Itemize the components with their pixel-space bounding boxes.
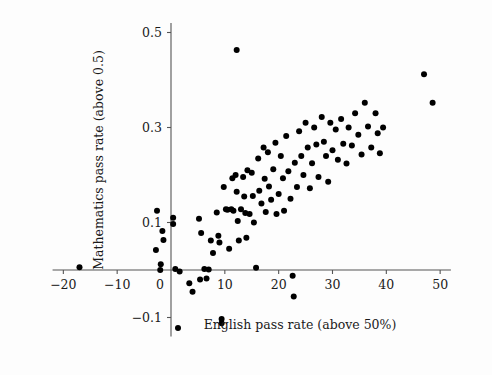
- scatter-plot-figure: −20−1001020304050−0.10.10.30.5 English p…: [0, 0, 492, 375]
- data-point: [276, 191, 282, 197]
- data-point: [251, 220, 257, 226]
- data-point: [249, 170, 255, 176]
- data-point: [365, 124, 371, 130]
- data-point: [305, 144, 311, 150]
- data-point: [221, 184, 227, 190]
- data-point: [373, 110, 379, 116]
- data-point: [266, 183, 272, 189]
- data-point: [270, 166, 276, 172]
- data-point: [250, 193, 256, 199]
- data-point: [190, 289, 196, 295]
- data-point: [159, 228, 165, 234]
- data-point: [338, 116, 344, 122]
- data-point: [333, 126, 339, 132]
- x-tick-label: 40: [378, 277, 394, 292]
- data-point: [234, 47, 240, 53]
- data-point: [76, 264, 82, 270]
- data-point: [255, 155, 261, 161]
- y-axis-title: Mathematics pass rate (above 0.5): [91, 50, 106, 270]
- data-point: [329, 147, 335, 153]
- data-point: [319, 114, 325, 120]
- y-tick-label: 0.3: [142, 120, 162, 135]
- data-point: [321, 139, 327, 145]
- data-point: [210, 250, 216, 256]
- data-point: [157, 267, 163, 273]
- data-point: [154, 208, 160, 214]
- data-point: [288, 196, 294, 202]
- data-point: [175, 325, 181, 331]
- data-point: [208, 238, 214, 244]
- data-point: [340, 141, 346, 147]
- x-axis-title: English pass rate (above 50%): [204, 317, 397, 332]
- data-point: [215, 233, 221, 239]
- data-point: [158, 261, 164, 267]
- data-point: [230, 208, 236, 214]
- data-point: [233, 172, 239, 178]
- data-point: [335, 157, 341, 163]
- data-point: [170, 215, 176, 221]
- data-point: [355, 132, 361, 138]
- data-point: [362, 100, 368, 106]
- data-point: [375, 130, 381, 136]
- data-point: [262, 176, 268, 182]
- data-point: [235, 218, 241, 224]
- data-point: [198, 230, 204, 236]
- data-point: [204, 276, 210, 282]
- data-point: [359, 152, 365, 158]
- data-point: [294, 184, 300, 190]
- data-point: [206, 267, 212, 273]
- data-point: [315, 174, 321, 180]
- x-tick-label: 30: [325, 277, 341, 292]
- data-point: [197, 277, 203, 283]
- data-point: [323, 153, 329, 159]
- x-tick-label: 10: [217, 277, 233, 292]
- data-point: [272, 140, 278, 146]
- data-point: [291, 294, 297, 300]
- data-point: [240, 174, 246, 180]
- x-tick-label: 0: [156, 277, 164, 292]
- data-point: [216, 239, 222, 245]
- data-point: [325, 179, 331, 185]
- data-point: [253, 265, 259, 271]
- data-point: [265, 149, 271, 155]
- data-point: [186, 280, 192, 286]
- data-point: [268, 197, 274, 203]
- y-tick-label: −0.1: [132, 310, 162, 325]
- data-point: [263, 209, 269, 215]
- data-point: [256, 188, 262, 194]
- data-point: [309, 160, 315, 166]
- plot-canvas: −20−1001020304050−0.10.10.30.5 English p…: [0, 0, 492, 375]
- data-point: [243, 235, 249, 241]
- data-point: [298, 153, 304, 159]
- data-point: [343, 161, 349, 167]
- data-point: [214, 210, 220, 216]
- x-tick-label: −20: [50, 277, 76, 292]
- data-point: [307, 185, 313, 191]
- data-point: [368, 144, 374, 150]
- data-point: [236, 238, 242, 244]
- x-tick-label: −10: [104, 277, 130, 292]
- data-point: [290, 273, 296, 279]
- data-point: [313, 142, 319, 148]
- data-point: [377, 150, 383, 156]
- data-point: [241, 193, 247, 199]
- x-tick-label: 20: [271, 277, 287, 292]
- tick-labels-group: −20−1001020304050−0.10.10.30.5: [50, 25, 448, 325]
- data-point: [327, 120, 333, 126]
- data-point: [196, 216, 202, 222]
- data-point: [226, 246, 232, 252]
- data-point: [292, 160, 298, 166]
- data-point: [296, 128, 302, 134]
- data-point: [280, 175, 286, 181]
- data-point: [281, 208, 287, 214]
- data-point: [274, 211, 280, 217]
- y-tick-label: 0.1: [142, 215, 162, 230]
- data-point: [177, 268, 183, 274]
- data-point: [430, 100, 436, 106]
- x-tick-label: 50: [432, 277, 448, 292]
- data-point: [300, 172, 306, 178]
- data-point: [278, 153, 284, 159]
- data-point: [170, 221, 176, 227]
- data-point: [349, 143, 355, 149]
- data-point: [421, 71, 427, 77]
